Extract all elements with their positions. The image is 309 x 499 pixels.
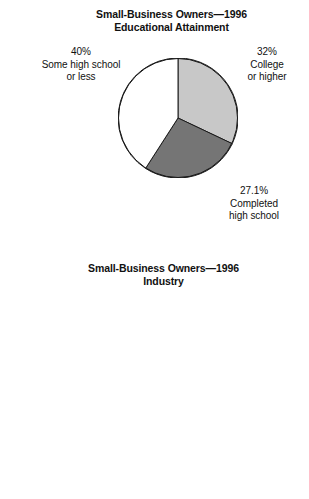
pie-label-some-high-school-pct: 40% <box>26 46 136 59</box>
figure-educational-attainment: Small-Business Owners—1996 Educational A… <box>0 0 309 250</box>
chart-title-education-line1: Small-Business Owners—1996 <box>96 8 247 20</box>
pie-chart-education <box>118 58 238 178</box>
pie-label-completed-line2: high school <box>208 210 300 223</box>
pie-label-college-pct: 32% <box>230 46 304 59</box>
pie-label-college-or-higher: 32% College or higher <box>230 46 304 84</box>
pie-label-some-high-school-line2: or less <box>26 71 136 84</box>
figure-industry: Small-Business Owners—1996 Industry 18% … <box>0 250 309 499</box>
pie-label-completed-line1: Completed <box>208 198 300 211</box>
pie-label-some-high-school-or-less: 40% Some high school or less <box>26 46 136 84</box>
pie-label-some-high-school-line1: Some high school <box>26 59 136 72</box>
chart-title-industry-line2: Industry <box>18 275 309 288</box>
pie-label-college-line2: or higher <box>230 71 304 84</box>
chart-title-education-line2: Educational Attainment <box>34 21 309 34</box>
pie-label-completed-high-school: 27.1% Completed high school <box>208 185 300 223</box>
pie-label-college-line1: College <box>230 59 304 72</box>
pie-label-completed-pct: 27.1% <box>208 185 300 198</box>
chart-title-industry: Small-Business Owners—1996 Industry <box>0 262 309 288</box>
chart-title-industry-line1: Small-Business Owners—1996 <box>88 262 239 274</box>
chart-title-education: Small-Business Owners—1996 Educational A… <box>0 8 309 34</box>
